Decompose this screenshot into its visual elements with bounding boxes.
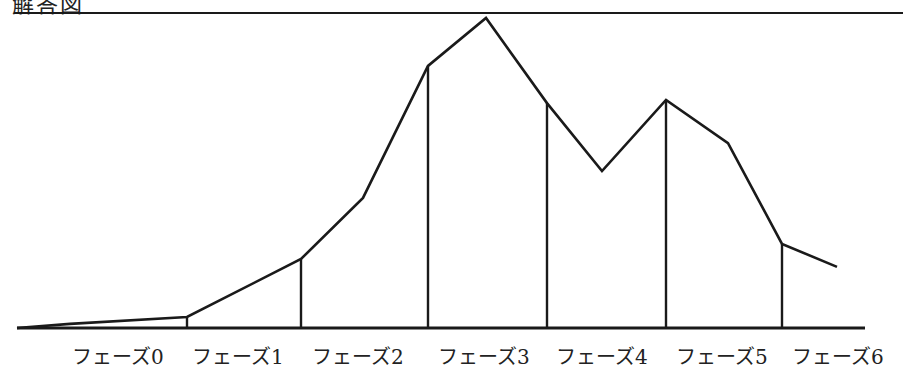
- phase-label-4: フェーズ4: [556, 341, 648, 370]
- phase-label-5: フェーズ5: [676, 341, 768, 370]
- chart-plot: [0, 0, 903, 383]
- phase-label-3: フェーズ3: [438, 341, 530, 370]
- phase-boundary-lines: [187, 66, 782, 328]
- phase-label-1: フェーズ1: [192, 341, 284, 370]
- phase-label-2: フェーズ2: [312, 341, 404, 370]
- phase-label-6: フェーズ6: [792, 341, 884, 370]
- phase-label-0: フェーズ0: [72, 341, 164, 370]
